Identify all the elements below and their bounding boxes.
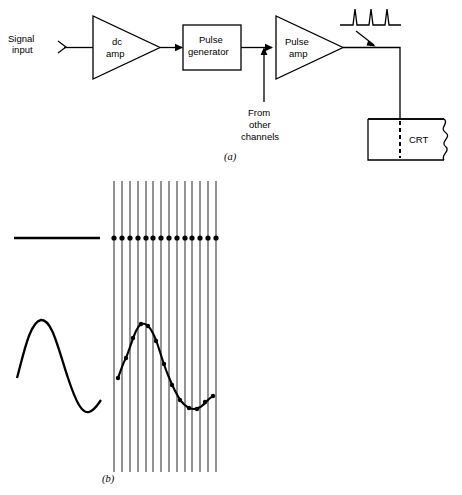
signal-input-label-line1: Signal	[8, 33, 34, 44]
sampling-line-group	[114, 181, 216, 472]
sine-sample-dot	[146, 324, 150, 328]
sine-sample-dot	[178, 398, 182, 402]
pulse-amp-label-line2: amp	[289, 48, 307, 59]
panel-b: (b)	[14, 181, 219, 485]
sine-sample-dot	[170, 383, 174, 387]
sine-sample-dot	[139, 322, 143, 326]
baseline-sample-dot	[119, 235, 124, 240]
panel-a: Signal input dc amp Pulse generator Fr	[8, 9, 448, 163]
baseline-sample-dot	[150, 235, 155, 240]
sine-sample-dot	[211, 394, 215, 398]
from-other-channels-line2: other	[249, 119, 271, 130]
sine-sample-dot	[154, 339, 158, 343]
baseline-sample-dot	[158, 235, 163, 240]
crt-label: CRT	[409, 134, 429, 145]
sine-sample-dot	[195, 407, 199, 411]
baseline-sample-dot	[166, 235, 171, 240]
from-other-channels-line3: channels	[241, 131, 279, 142]
arrowhead-into-pulse-generator-icon	[175, 44, 183, 51]
crt-torn-edge-icon	[443, 119, 448, 160]
figure-root: Signal input dc amp Pulse generator Fr	[0, 0, 462, 495]
baseline-sample-dot	[182, 235, 187, 240]
pulse-amp-label-line1: Pulse	[285, 36, 309, 47]
arrowhead-into-pulse-amp-icon	[265, 44, 273, 51]
sine-sample-dot	[116, 376, 120, 380]
sine-sample-dot	[203, 400, 207, 404]
sine-sample-dot	[124, 356, 128, 360]
figure-canvas: Signal input dc amp Pulse generator Fr	[0, 0, 462, 495]
sine-sample-dot	[162, 362, 166, 366]
continuous-sine-trace	[17, 320, 101, 412]
wire-pulse-amp-to-crt	[343, 48, 400, 120]
baseline-sample-dot	[135, 235, 140, 240]
baseline-sample-dot	[197, 235, 202, 240]
baseline-sample-dot	[213, 235, 218, 240]
baseline-sample-dot	[127, 235, 132, 240]
dc-amp-label-line2: amp	[106, 48, 124, 59]
baseline-sample-dot	[174, 235, 179, 240]
crt-block-outline-left	[368, 119, 444, 160]
panel-a-caption: (a)	[224, 151, 237, 163]
baseline-sample-dot-group	[111, 235, 218, 240]
dc-amp-label-line1: dc	[112, 36, 122, 47]
from-other-channels-line1: From	[248, 107, 270, 118]
pulse-generator-label-line2: generator	[188, 46, 229, 57]
baseline-sample-dot	[111, 235, 116, 240]
baseline-sample-dot	[189, 235, 194, 240]
pulse-train-pointer-arrowhead-icon	[367, 40, 376, 46]
sine-sample-dot	[187, 406, 191, 410]
pulse-generator-label-line1: Pulse	[199, 34, 223, 45]
signal-input-label-line2: input	[12, 44, 33, 55]
baseline-sample-dot	[143, 235, 148, 240]
dc-amp-block	[93, 16, 160, 79]
panel-b-caption: (b)	[102, 473, 115, 485]
pulse-amp-block	[276, 16, 343, 79]
pulse-train-waveform	[340, 9, 401, 25]
sine-sample-dot	[131, 336, 135, 340]
baseline-sample-dot	[205, 235, 210, 240]
